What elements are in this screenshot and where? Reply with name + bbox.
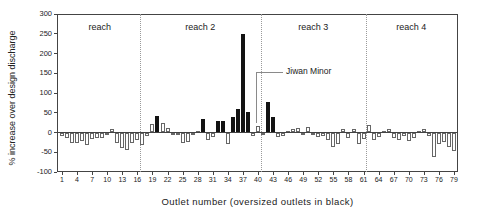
bar-outlet-64 xyxy=(377,133,381,137)
bar-outlet-35 xyxy=(231,117,235,132)
bar-outlet-68 xyxy=(397,133,401,140)
x-tick-label: 55 xyxy=(326,176,340,184)
bar-outlet-61 xyxy=(362,133,366,139)
zero-baseline xyxy=(57,132,458,133)
bar-outlet-6 xyxy=(85,133,89,145)
x-tick-mark xyxy=(198,172,199,175)
reach-divider xyxy=(140,14,141,172)
x-tick-label: 4 xyxy=(70,176,84,184)
x-tick-label: 46 xyxy=(281,176,295,184)
bar-outlet-77 xyxy=(442,133,446,142)
bar-outlet-2 xyxy=(65,133,69,139)
bar-outlet-29 xyxy=(201,119,205,132)
x-tick-mark xyxy=(122,172,123,175)
bar-outlet-12 xyxy=(115,133,119,143)
x-tick-mark xyxy=(348,172,349,175)
x-tick-label: 37 xyxy=(236,176,250,184)
bar-outlet-70 xyxy=(407,133,411,141)
bar-outlet-17 xyxy=(140,133,144,145)
x-tick-mark xyxy=(409,172,410,175)
x-tick-mark xyxy=(258,172,259,175)
bar-outlet-18 xyxy=(145,133,149,137)
y-tick-mark xyxy=(54,172,57,173)
y-axis-title: % increase over design discharge xyxy=(7,28,17,168)
x-tick-label: 67 xyxy=(387,176,401,184)
x-tick-label: 28 xyxy=(191,176,205,184)
x-tick-label: 70 xyxy=(402,176,416,184)
y-tick-mark xyxy=(54,73,57,74)
x-tick-mark xyxy=(168,172,169,175)
annotation-label: Jiwan Minor xyxy=(286,66,331,76)
x-tick-label: 73 xyxy=(417,176,431,184)
x-tick-label: 34 xyxy=(221,176,235,184)
bar-outlet-58 xyxy=(346,133,350,139)
bar-outlet-32 xyxy=(216,121,220,132)
bar-outlet-43 xyxy=(271,117,275,132)
bar-outlet-52 xyxy=(316,133,320,138)
y-tick-label: 0 xyxy=(20,129,52,137)
x-tick-label: 52 xyxy=(311,176,325,184)
bar-outlet-30 xyxy=(206,133,210,140)
x-tick-mark xyxy=(454,172,455,175)
x-tick-label: 43 xyxy=(266,176,280,184)
bar-outlet-67 xyxy=(392,133,396,139)
x-tick-mark xyxy=(379,172,380,175)
y-tick-label: 50 xyxy=(20,109,52,117)
bar-outlet-16 xyxy=(135,133,139,141)
x-tick-mark xyxy=(288,172,289,175)
x-tick-label: 25 xyxy=(176,176,190,184)
x-tick-mark xyxy=(439,172,440,175)
bar-outlet-79 xyxy=(452,133,456,151)
bar-outlet-54 xyxy=(326,133,330,141)
x-tick-mark xyxy=(394,172,395,175)
x-tick-label: 49 xyxy=(296,176,310,184)
bar-outlet-13 xyxy=(120,133,124,148)
x-tick-mark xyxy=(213,172,214,175)
x-tick-mark xyxy=(228,172,229,175)
x-tick-mark xyxy=(62,172,63,175)
bar-outlet-42 xyxy=(266,102,270,133)
bar-outlet-55 xyxy=(331,133,335,147)
y-tick-mark xyxy=(54,152,57,153)
x-tick-mark xyxy=(92,172,93,175)
bar-outlet-4 xyxy=(75,133,79,144)
x-tick-mark xyxy=(137,172,138,175)
reach-label: reach xyxy=(88,22,111,32)
x-tick-label: 76 xyxy=(432,176,446,184)
x-tick-mark xyxy=(318,172,319,175)
bar-outlet-75 xyxy=(432,133,436,157)
x-tick-mark xyxy=(107,172,108,175)
y-tick-label: -50 xyxy=(20,148,52,156)
bar-outlet-15 xyxy=(130,133,134,143)
bar-outlet-36 xyxy=(236,109,240,133)
y-tick-label: -100 xyxy=(20,168,52,176)
bar-outlet-37 xyxy=(241,34,245,133)
bar-outlet-44 xyxy=(276,133,280,138)
y-tick-mark xyxy=(54,53,57,54)
bar-outlet-9 xyxy=(100,133,104,139)
x-tick-label: 10 xyxy=(100,176,114,184)
x-tick-label: 40 xyxy=(251,176,265,184)
bar-outlet-20 xyxy=(155,116,159,133)
bar-outlet-31 xyxy=(211,133,215,137)
y-tick-label: 300 xyxy=(20,10,52,18)
x-tick-mark xyxy=(303,172,304,175)
x-tick-mark xyxy=(333,172,334,175)
annotation-leader-horizontal xyxy=(256,72,283,73)
x-tick-label: 64 xyxy=(372,176,386,184)
x-tick-label: 19 xyxy=(145,176,159,184)
bar-outlet-3 xyxy=(70,133,74,143)
y-tick-label: 200 xyxy=(20,50,52,58)
bar-outlet-69 xyxy=(402,133,406,137)
bar-outlet-34 xyxy=(226,133,230,145)
x-tick-mark xyxy=(364,172,365,175)
reach-label: reach 3 xyxy=(298,22,328,32)
bar-outlet-25 xyxy=(181,133,185,144)
y-tick-mark xyxy=(54,33,57,34)
x-tick-mark xyxy=(183,172,184,175)
y-tick-label: 250 xyxy=(20,30,52,38)
bar-outlet-60 xyxy=(357,133,361,144)
x-tick-label: 58 xyxy=(341,176,355,184)
reach-label: reach 2 xyxy=(185,22,215,32)
bar-outlet-38 xyxy=(246,112,250,133)
